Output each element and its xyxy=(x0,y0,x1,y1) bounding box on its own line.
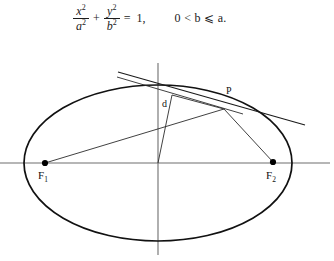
y-numerator: y2 xyxy=(104,4,119,17)
focus-f2-subscript: 2 xyxy=(272,175,276,184)
ellipse-diagram: F1 F2 P d xyxy=(0,46,334,261)
x-denominator: a2 xyxy=(73,19,89,32)
parameter-condition: 0 < b ⩽ a. xyxy=(175,11,227,26)
focus-f1-dot xyxy=(42,160,48,166)
plus-operator: + xyxy=(93,11,100,26)
focus-f2-dot xyxy=(270,159,276,165)
x-exponent: 2 xyxy=(82,3,86,12)
equation-rhs: 1, xyxy=(137,11,146,26)
distance-d-label: d xyxy=(162,98,167,109)
focus-f1-label: F1 xyxy=(38,169,48,184)
point-p-label: P xyxy=(226,85,232,96)
focus-f2-label: F2 xyxy=(266,169,276,184)
foot-to-p-segment xyxy=(172,95,224,109)
ellipse-standard-equation: x2 a2 + y2 b2 = 1, 0 < b ⩽ a. xyxy=(72,4,227,32)
b-exponent: 2 xyxy=(113,18,117,27)
x-numerator: x2 xyxy=(73,4,88,17)
a-exponent: 2 xyxy=(82,18,86,27)
tangent-line-at-p xyxy=(118,72,305,125)
focal-ray-f1-to-p xyxy=(45,109,224,163)
y-denominator: b2 xyxy=(104,19,120,32)
ellipse-figure-page: x2 a2 + y2 b2 = 1, 0 < b ⩽ a. xyxy=(0,0,334,261)
equals-operator: = xyxy=(124,11,131,26)
y-exponent: 2 xyxy=(112,3,116,12)
x-term-fraction: x2 a2 xyxy=(73,4,89,32)
focus-f1-subscript: 1 xyxy=(44,175,48,184)
equation-band: x2 a2 + y2 b2 = 1, 0 < b ⩽ a. xyxy=(0,0,334,46)
y-term-fraction: y2 b2 xyxy=(104,4,120,32)
